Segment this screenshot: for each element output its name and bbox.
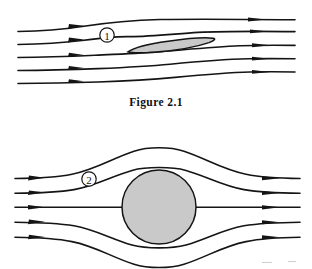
scan-artifact bbox=[262, 262, 272, 263]
figure-page: 1 bbox=[0, 0, 312, 269]
scan-artifact-2 bbox=[288, 261, 296, 262]
callout-1-label: 1 bbox=[104, 30, 110, 42]
figure-2-1-group: 1 bbox=[18, 18, 295, 84]
fig1-arrow-right-5 bbox=[252, 70, 270, 74]
airfoil-body bbox=[128, 38, 215, 53]
figure-2-2-group: 2 bbox=[15, 148, 300, 268]
figure-caption-1: Figure 2.1 bbox=[0, 96, 312, 108]
fig2-arrow-left-3 bbox=[28, 205, 45, 209]
fig1-arrow-right-2 bbox=[250, 29, 268, 33]
callout-marker-1: 1 bbox=[100, 28, 114, 42]
fig1-arrow-right-1 bbox=[248, 18, 266, 22]
fig1-arrow-right-4 bbox=[252, 57, 270, 61]
callout-marker-2: 2 bbox=[82, 172, 96, 186]
fig2-arrow-left-2 bbox=[28, 190, 45, 195]
callout-2-label: 2 bbox=[86, 174, 92, 186]
fig2-arrow-right-3 bbox=[262, 205, 280, 209]
fig1-arrow-right-3 bbox=[252, 43, 270, 47]
streamline-diagram: 1 bbox=[0, 0, 312, 269]
fig2-arrow-left-1 bbox=[28, 176, 45, 181]
circular-body bbox=[122, 170, 196, 244]
